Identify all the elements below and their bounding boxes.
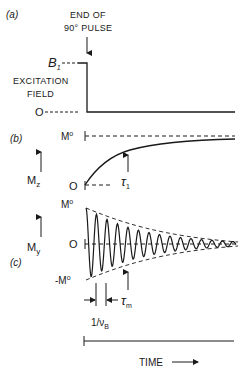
zero-label-c: O xyxy=(69,238,78,250)
tau-m-label: τm xyxy=(121,293,132,309)
excitation-label-line1: EXCITATION xyxy=(13,76,69,86)
pulse-label-line1: END OF xyxy=(70,10,106,20)
panel-b: (b) Mo Mz O τ1 xyxy=(10,130,235,192)
nmr-pulse-diagram: (a) END OF 90° PULSE B1 EXCITATION FIELD… xyxy=(0,0,249,373)
panel-b-tag: (b) xyxy=(10,133,22,144)
pulse-label-line2: 90° PULSE xyxy=(64,23,112,33)
m0-label-c: Mo xyxy=(61,198,73,210)
tau1-label: τ1 xyxy=(121,174,130,190)
zero-label-a: O xyxy=(35,106,44,118)
b1-label: B1 xyxy=(48,55,61,71)
time-label: TIME xyxy=(139,357,163,368)
mz-recovery-curve xyxy=(85,139,235,185)
m0-label-b: Mo xyxy=(61,130,73,142)
mz-label: Mz xyxy=(27,174,40,189)
time-axis: TIME xyxy=(84,336,234,368)
period-label: 1/νB xyxy=(91,317,109,330)
panel-a-tag: (a) xyxy=(6,9,18,20)
my-label: My xyxy=(27,241,40,256)
zero-label-b: O xyxy=(69,180,78,192)
neg-m0-label-c: -Mo xyxy=(55,274,71,286)
fid-oscillation-trace xyxy=(86,208,236,277)
panel-a: (a) END OF 90° PULSE B1 EXCITATION FIELD… xyxy=(6,9,235,118)
excitation-label-line2: FIELD xyxy=(27,89,54,99)
panel-c: Mo My O (c) -Mo τm 1/νB xyxy=(10,198,238,330)
excitation-pulse-trace xyxy=(78,63,235,112)
lower-decay-envelope xyxy=(86,246,238,280)
panel-c-tag: (c) xyxy=(10,257,22,268)
